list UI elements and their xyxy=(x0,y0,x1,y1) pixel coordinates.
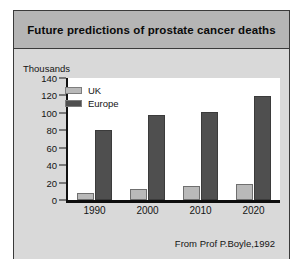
bar-uk-1990 xyxy=(77,193,94,200)
y-tick-label: 80 xyxy=(23,125,57,136)
bar-group-2000 xyxy=(130,78,165,200)
y-tick-mark xyxy=(59,147,66,148)
bar-europe-2010 xyxy=(201,112,218,200)
y-tick-label: 20 xyxy=(23,177,57,188)
legend-label-europe: Europe xyxy=(88,98,119,109)
chart-figure: Future predictions of prostate cancer de… xyxy=(13,10,290,259)
bar-group-2020 xyxy=(236,78,271,200)
x-tick-label-2020: 2020 xyxy=(231,205,277,216)
page-title: Future predictions of prostate cancer de… xyxy=(27,24,276,36)
bar-europe-2020 xyxy=(254,96,271,200)
y-tick-mark xyxy=(59,130,66,131)
y-tick-label: 100 xyxy=(23,107,57,118)
y-tick-label: 120 xyxy=(23,90,57,101)
bar-europe-1990 xyxy=(95,130,112,200)
legend-swatch-uk xyxy=(65,87,82,94)
y-tick-mark xyxy=(59,112,66,113)
bar-uk-2010 xyxy=(183,186,200,200)
x-tick-label-2000: 2000 xyxy=(125,205,171,216)
legend-item-uk: UK xyxy=(65,85,119,96)
chart-legend: UK Europe xyxy=(65,85,119,111)
y-tick-mark xyxy=(59,182,66,183)
legend-item-europe: Europe xyxy=(65,98,119,109)
y-tick-mark xyxy=(59,78,66,79)
x-axis-line xyxy=(66,200,280,203)
y-tick-label: 140 xyxy=(23,73,57,84)
bar-group-2010 xyxy=(183,78,218,200)
legend-swatch-europe xyxy=(65,100,82,107)
bar-uk-2000 xyxy=(130,189,147,200)
bar-uk-2020 xyxy=(236,184,253,200)
y-axis-tick-labels: 140 120 100 80 60 40 20 0 xyxy=(23,78,57,200)
y-tick-label: 60 xyxy=(23,142,57,153)
x-tick-label-2010: 2010 xyxy=(178,205,224,216)
plot-area: 140 120 100 80 60 40 20 0 xyxy=(23,78,281,218)
y-tick-mark xyxy=(59,200,66,201)
bar-europe-2000 xyxy=(148,115,165,200)
chart-body: Thousands 140 120 100 80 60 40 20 0 xyxy=(14,49,289,259)
x-tick-label-1990: 1990 xyxy=(72,205,118,216)
x-axis-tick-labels: 1990 2000 2010 2020 xyxy=(68,205,280,216)
legend-label-uk: UK xyxy=(88,85,101,96)
chart-title-bar: Future predictions of prostate cancer de… xyxy=(14,11,289,49)
y-tick-mark xyxy=(59,165,66,166)
chart-attribution: From Prof P.Boyle,1992 xyxy=(175,238,275,249)
y-tick-label: 0 xyxy=(23,195,57,206)
y-tick-label: 40 xyxy=(23,160,57,171)
